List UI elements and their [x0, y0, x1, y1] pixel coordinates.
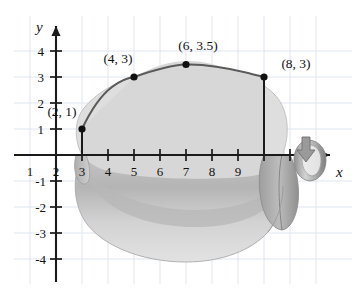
x-tick-label: 7: [183, 164, 190, 179]
point-label-2-1: (2, 1): [47, 104, 76, 119]
x-axis-tick-labels: 1 2 3 4 5 6 7 8 9: [27, 164, 242, 179]
point-label-6-3.5: (6, 3.5): [178, 38, 217, 53]
data-point: [130, 73, 137, 80]
y-tick-label: 4: [38, 44, 45, 59]
y-tick-label: 3: [38, 70, 45, 85]
y-tick-label: -2: [35, 200, 46, 215]
y-tick-label: 2: [38, 96, 45, 111]
data-point: [78, 125, 85, 132]
figure-solid-of-revolution: 1 2 3 4 5 6 7 8 9 4 3 2 1 -1 -2 -3 -4 y …: [0, 0, 358, 292]
x-axis-label: x: [335, 164, 343, 180]
x-tick-label: 2: [53, 164, 60, 179]
y-tick-label: -3: [35, 226, 46, 241]
y-axis-label: y: [34, 19, 43, 35]
data-point: [182, 61, 189, 68]
x-tick-label: 3: [79, 164, 86, 179]
x-tick-label: 4: [105, 164, 112, 179]
x-tick-label: 8: [209, 164, 216, 179]
point-label-4-3: (4, 3): [103, 51, 132, 66]
x-tick-label: 9: [235, 164, 242, 179]
x-tick-label: 1: [27, 164, 34, 179]
x-tick-label: 5: [131, 164, 138, 179]
revolution-plot-svg: 1 2 3 4 5 6 7 8 9 4 3 2 1 -1 -2 -3 -4 y …: [0, 0, 358, 292]
y-tick-label: -4: [35, 252, 46, 267]
point-label-8-3: (8, 3): [281, 56, 310, 71]
data-point: [260, 73, 267, 80]
x-tick-label: 6: [157, 164, 164, 179]
y-tick-label: 1: [38, 122, 45, 137]
y-tick-label: -1: [35, 174, 46, 189]
